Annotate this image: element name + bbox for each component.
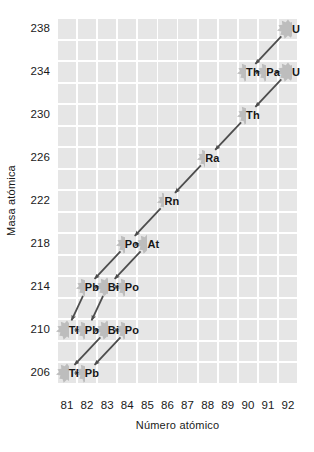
nuclide-blob-icon	[156, 190, 165, 212]
alpha-decay-arrow	[255, 79, 281, 107]
y-axis-tick-label: 238	[22, 23, 50, 35]
nuclide-blob-icon	[276, 18, 292, 40]
x-axis-tick-label: 92	[276, 400, 300, 412]
y-axis-tick-label: 206	[22, 367, 50, 379]
nuclide-symbol-label: U	[292, 67, 300, 78]
y-axis-title: Masa atómica	[6, 161, 17, 241]
nuclide-symbol-label: Po	[125, 282, 139, 293]
nuclide-blob-icon	[55, 362, 69, 384]
nuclide-symbol-label: Th	[246, 110, 260, 121]
alpha-decay-arrow	[175, 165, 201, 193]
decay-chain-figure: UThPaUThRaRnPoAtPbBiPoTlPbBiPoTlPb 23823…	[0, 0, 314, 452]
nuclide-symbol-label: Rn	[164, 196, 179, 207]
nuclide-symbol-label: Bi	[108, 282, 119, 293]
alpha-decay-arrow	[215, 122, 241, 150]
nuclide-symbol-label: Po	[125, 325, 139, 336]
nuclide-symbol-label: Th	[246, 67, 260, 78]
y-axis-tick-label: 234	[22, 66, 50, 78]
y-axis-tick-label: 210	[22, 324, 50, 336]
nuclide-node: U	[276, 18, 300, 40]
alpha-decay-arrow	[115, 251, 141, 279]
nuclide-blob-icon	[236, 61, 246, 83]
alpha-decay-arrow	[135, 208, 161, 236]
nuclide-symbol-label: Tl	[69, 325, 79, 336]
nuclide-symbol-label: Ra	[205, 153, 219, 164]
nuclide-symbol-label: Tl	[69, 368, 79, 379]
nuclide-symbol-label: Pb	[85, 325, 99, 336]
x-axis-title: Número atómico	[55, 420, 300, 431]
nuclide-symbol-label: Bi	[108, 325, 119, 336]
nuclide-node: Ra	[196, 147, 220, 169]
alpha-decay-arrow	[95, 337, 121, 365]
nuclide-symbol-label: U	[292, 24, 300, 35]
alpha-decay-arrow	[255, 36, 281, 64]
alpha-decay-arrow	[75, 337, 101, 365]
nuclide-blob-icon	[115, 233, 125, 255]
nuclide-node: Th	[236, 104, 260, 126]
y-axis-tick-label: 222	[22, 195, 50, 207]
nuclide-symbol-label: Pb	[85, 368, 99, 379]
y-axis-tick-label: 230	[22, 109, 50, 121]
alpha-decay-arrow	[95, 251, 121, 279]
nuclide-blob-icon	[196, 147, 206, 169]
alpha-decay-arrow	[72, 296, 83, 321]
y-axis-tick-label: 226	[22, 152, 50, 164]
nuclide-node: Rn	[156, 190, 180, 212]
nuclide-symbol-label: Pa	[266, 67, 280, 78]
nuclide-symbol-label: Po	[125, 239, 139, 250]
nuclide-blob-icon	[236, 104, 246, 126]
nuclide-symbol-label: At	[147, 239, 159, 250]
y-axis-tick-label: 214	[22, 281, 50, 293]
nuclide-blob-icon	[55, 319, 69, 341]
nuclide-symbol-label: Pb	[85, 282, 99, 293]
y-axis-tick-label: 218	[22, 238, 50, 250]
alpha-decay-arrow	[92, 296, 103, 321]
nuclide-blob-icon	[75, 276, 85, 298]
